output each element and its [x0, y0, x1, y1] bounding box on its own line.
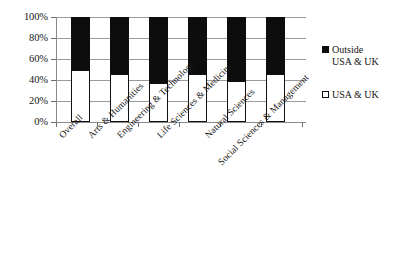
bar-segment-outside-usa-uk: [266, 17, 285, 74]
y-tick-label-20: 20%: [0, 96, 48, 107]
x-tick-mark-6: [302, 122, 303, 127]
y-tick-label-60: 60%: [0, 54, 48, 65]
y-tick-label-0: 0%: [0, 117, 48, 128]
y-tick-label-40: 40%: [0, 75, 48, 86]
bar-segment-outside-usa-uk: [110, 17, 129, 74]
chart-legend: Outside USA & UK USA & UK: [322, 44, 408, 123]
x-tick-mark-0: [56, 122, 57, 127]
legend-swatch-filled-square-icon: [322, 46, 329, 53]
bar-segment-outside-usa-uk: [71, 17, 90, 70]
bar-overall: [71, 17, 90, 122]
bar-segment-outside-usa-uk: [149, 17, 168, 83]
chart-container: 100% 80% 60% 40% 20% 0%: [0, 0, 410, 253]
y-tick-label-100: 100%: [0, 12, 48, 23]
bar-segment-usa-uk: [71, 70, 90, 123]
legend-swatch-open-square-icon: [322, 91, 329, 98]
legend-item-usa-uk: USA & UK: [322, 89, 408, 101]
legend-label-usa-uk: USA & UK: [332, 89, 379, 101]
y-tick-label-80: 80%: [0, 33, 48, 44]
legend-item-outside-usa-uk: Outside USA & UK: [322, 44, 408, 67]
legend-label-outside-usa-uk: Outside USA & UK: [332, 44, 379, 67]
